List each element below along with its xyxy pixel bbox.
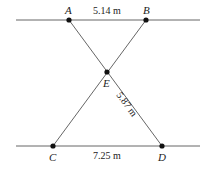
label-D: D — [157, 151, 166, 163]
point-E — [104, 69, 109, 74]
geometry-diagram: A B E C D 5.14 m 7.25 m 5.87 m — [0, 0, 210, 172]
measurement-ED: 5.87 m — [114, 90, 139, 119]
point-A — [66, 17, 71, 22]
segment-BC — [53, 20, 146, 146]
point-C — [50, 143, 55, 148]
measurement-AB: 5.14 m — [93, 5, 121, 16]
label-B: B — [143, 4, 150, 16]
point-B — [143, 17, 148, 22]
segment-AD — [69, 20, 162, 146]
measurement-CD: 7.25 m — [93, 150, 121, 161]
label-E: E — [102, 77, 110, 89]
point-D — [159, 143, 164, 148]
label-C: C — [49, 151, 57, 163]
label-A: A — [64, 4, 72, 16]
